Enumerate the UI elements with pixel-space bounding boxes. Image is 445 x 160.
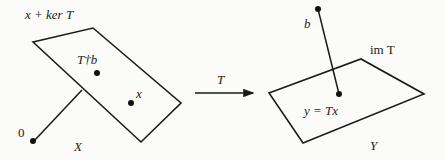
pseudoinverse-solution-label: T†b — [77, 52, 98, 67]
space-x-label: X — [73, 139, 83, 154]
linear-map-t: T — [195, 72, 253, 93]
solution-x-dot — [128, 100, 134, 106]
map-label: T — [217, 72, 225, 87]
origin-dot — [30, 138, 36, 144]
plane-label-im-t: im T — [370, 42, 395, 57]
image-subspace-im-t — [269, 59, 424, 143]
space-y-label: Y — [370, 138, 379, 153]
target-b-label: b — [304, 16, 311, 31]
image-point-label: y = Tx — [302, 103, 338, 118]
linear-map-diagram: x + ker T T†b x 0 X T b im T y = Tx Y — [0, 0, 445, 160]
origin-label: 0 — [18, 125, 25, 140]
origin-to-plane-line — [34, 90, 82, 141]
affine-subspace-x-plus-ker-t — [33, 28, 181, 142]
codomain-y: b im T y = Tx Y — [269, 6, 424, 153]
solution-x-label: x — [135, 86, 142, 101]
target-b-dot — [315, 6, 321, 12]
plane-label-x-plus-ker-t: x + ker T — [24, 7, 74, 22]
projection-line — [318, 9, 339, 94]
image-point-dot — [336, 91, 342, 97]
pseudoinverse-solution-dot — [94, 70, 100, 76]
domain-x: x + ker T T†b x 0 X — [18, 7, 181, 154]
